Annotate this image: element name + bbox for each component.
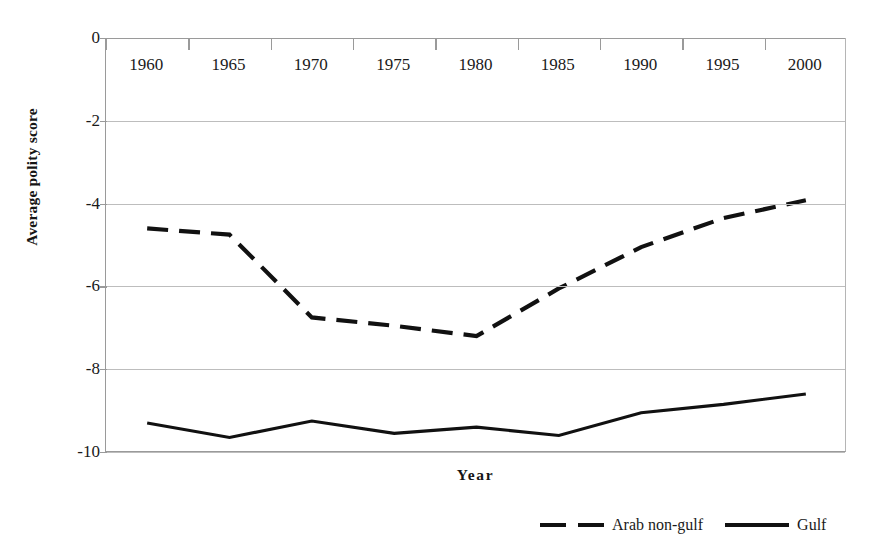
y-axis-tick-mark	[100, 204, 107, 205]
x-axis-tick-label: 2000	[764, 55, 846, 75]
y-axis-tick-label: -10	[56, 443, 100, 460]
y-axis-tick-mark	[100, 369, 107, 370]
gridline	[106, 286, 845, 287]
x-axis-tick-labels: 196019651970197519801985199019952000	[105, 55, 846, 81]
gridline	[106, 38, 845, 39]
gridline	[106, 369, 845, 370]
legend-label: Arab non-gulf	[612, 517, 703, 533]
y-axis-tick-mark	[100, 38, 107, 39]
y-axis-tick-labels: 0-2-4-6-8-10	[52, 0, 100, 557]
x-axis-title: Year	[105, 466, 846, 484]
y-axis-tick-label: -2	[56, 112, 100, 129]
x-axis-tick-mark	[600, 38, 601, 50]
x-axis-tick-label: 1970	[270, 55, 352, 75]
series-lines	[106, 38, 847, 452]
gridline	[106, 452, 845, 453]
legend-label: Gulf	[797, 517, 826, 533]
x-axis-tick-mark	[518, 38, 519, 50]
y-axis-title: Average polity score	[23, 67, 41, 287]
x-axis-tick-mark	[271, 38, 272, 50]
y-axis-tick-mark	[100, 286, 107, 287]
legend-swatch-solid	[725, 523, 789, 527]
gridline	[106, 121, 845, 122]
chart-legend: Arab non-gulfGulf	[540, 512, 826, 538]
series-line-gulf	[147, 394, 806, 437]
series-line-arab-non-gulf	[147, 200, 806, 336]
x-axis-tick-label: 1995	[681, 55, 763, 75]
y-axis-tick-label: -8	[56, 360, 100, 377]
x-axis-tick-label: 1980	[434, 55, 516, 75]
legend-item[interactable]: Arab non-gulf	[540, 517, 703, 533]
legend-item[interactable]: Gulf	[725, 517, 826, 533]
gridline	[106, 204, 845, 205]
polity-score-line-chart: Average polity score 0-2-4-6-8-10 196019…	[0, 0, 883, 557]
x-axis-tick-mark	[353, 38, 354, 50]
x-axis-tick-label: 1990	[599, 55, 681, 75]
y-axis-tick-label: -6	[56, 277, 100, 294]
x-axis-tick-mark	[682, 38, 683, 50]
x-axis-tick-label: 1960	[105, 55, 187, 75]
x-axis-tick-mark	[188, 38, 189, 50]
y-axis-tick-label: 0	[56, 29, 100, 46]
x-axis-tick-label: 1975	[352, 55, 434, 75]
x-axis-tick-mark	[765, 38, 766, 50]
x-axis-tick-mark	[106, 38, 107, 50]
y-axis-tick-label: -4	[56, 195, 100, 212]
x-axis-tick-mark	[435, 38, 436, 50]
legend-swatch-dashed	[540, 523, 604, 527]
x-axis-tick-label: 1965	[187, 55, 269, 75]
y-axis-tick-mark	[100, 452, 107, 453]
plot-area	[105, 38, 846, 452]
y-axis-tick-mark	[100, 121, 107, 122]
x-axis-tick-label: 1985	[517, 55, 599, 75]
